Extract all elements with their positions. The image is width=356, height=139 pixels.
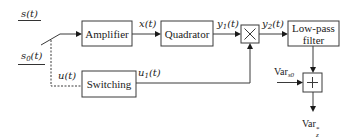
u-signal-label: u(t) (58, 71, 76, 81)
arrow-to-multiplier-bottom (247, 43, 253, 49)
lowpass-filter-label: Low-pass filter (288, 21, 339, 46)
arrow-to-adder (310, 67, 316, 73)
variance-output-label: Var*z (302, 119, 319, 138)
switching-label: Switching (82, 71, 136, 97)
arrow-to-multiplier (235, 31, 241, 37)
reference-input-label: s0(t) (18, 51, 45, 65)
arrow-var-in (297, 80, 303, 86)
amplifier-label: Amplifier (82, 21, 132, 46)
y2-signal-label: y2(t) (262, 19, 284, 31)
switch-wire (41, 34, 78, 45)
arrow-var-out (310, 106, 316, 112)
u1-signal-label: u1(t) (138, 68, 161, 80)
quadrator-label: Quadrator (161, 21, 213, 46)
y1-signal-label: y1(t) (217, 19, 239, 31)
signal-processing-block-diagram: s(t) s0(t) Amplifier Quadrator Low-pass … (0, 0, 356, 139)
variance-input-label: Vars0 (274, 67, 294, 79)
signal-input-label: s(t) (18, 9, 41, 21)
x-signal-label: x(t) (139, 19, 156, 29)
